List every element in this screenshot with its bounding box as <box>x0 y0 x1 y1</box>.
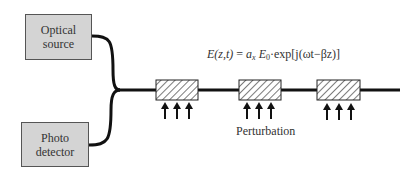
optical-source-box: Optical source <box>25 14 92 60</box>
field-equation: E(z,t) = ax E0·exp[j(ωt−βz)] <box>207 47 340 62</box>
eq-e0: E <box>259 47 266 61</box>
arrows-2 <box>243 102 275 119</box>
upper-fiber <box>92 36 120 90</box>
photo-detector-label-2: detector <box>36 145 75 159</box>
photo-detector-label-1: Photo <box>41 131 69 145</box>
arrow-icon-group <box>161 102 355 120</box>
grating-3 <box>317 80 360 100</box>
arrows-1 <box>161 102 193 119</box>
arrows-3 <box>323 103 355 120</box>
photo-detector-box: Photo detector <box>21 122 89 167</box>
eq-lhs: E(z,t) <box>207 47 233 61</box>
grating-1 <box>156 80 198 100</box>
eq-ax-sub: x <box>252 53 256 62</box>
grating-2 <box>239 80 281 100</box>
optical-source-label-1: Optical <box>41 23 76 37</box>
eq-sign: = <box>233 47 246 61</box>
lower-fiber <box>89 90 120 145</box>
eq-rhs: ·exp[j(ωt−βz)] <box>270 47 340 61</box>
optical-source-label-2: source <box>43 37 74 51</box>
perturbation-label: Perturbation <box>236 124 295 139</box>
